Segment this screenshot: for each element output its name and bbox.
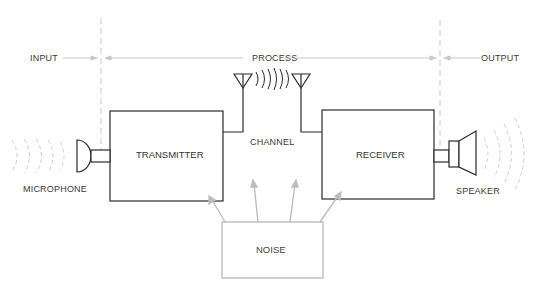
radio-waves-icon — [256, 68, 289, 90]
noise-label: NOISE — [256, 245, 286, 255]
microphone-sound-waves — [12, 139, 64, 173]
microphone-icon — [77, 140, 110, 172]
transmit-antenna-icon — [223, 74, 252, 132]
process-label: PROCESS — [252, 53, 297, 63]
microphone-label: MICROPHONE — [23, 184, 87, 194]
transmitter-label: TRANSMITTER — [136, 150, 204, 160]
output-label: OUTPUT — [481, 53, 519, 63]
noise-arrows — [209, 180, 341, 222]
speaker-sound-waves — [484, 118, 524, 190]
receiver-label: RECEIVER — [356, 150, 405, 160]
speaker-icon — [434, 131, 476, 175]
speaker-label: SPEAKER — [456, 186, 500, 196]
receive-antenna-icon — [292, 74, 322, 132]
input-label: INPUT — [30, 53, 58, 63]
channel-label: CHANNEL — [250, 137, 294, 147]
